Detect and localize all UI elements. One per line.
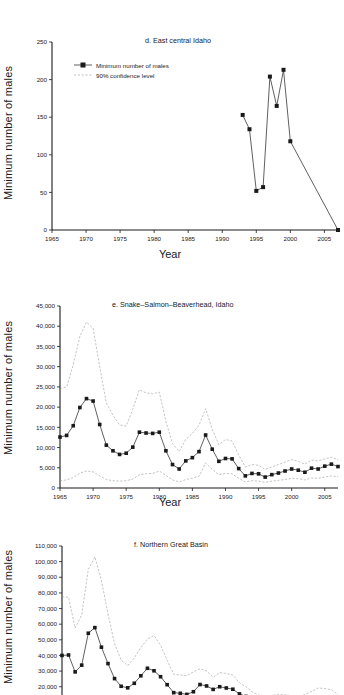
x-tick-label: 1970 [79,235,93,242]
panel-f-northern-great-basin: Minimum number of males f. Northern Grea… [0,518,344,695]
data-point-marker [124,451,128,455]
data-point-marker [230,457,234,461]
data-point-marker [197,450,201,454]
data-point-marker [192,690,196,694]
y-tick-label: 0 [52,484,56,491]
data-point-marker [113,677,117,681]
data-point-marker [210,447,214,451]
data-point-marker [217,460,221,464]
data-series-line [243,70,338,230]
legend-confidence-label: 90% confidence level [96,72,154,79]
y-tick-label: 30,000 [38,667,57,674]
data-point-marker [165,683,169,687]
data-point-marker [282,68,286,72]
data-point-marker [178,691,182,695]
data-point-marker [241,113,245,117]
data-point-marker [270,473,274,477]
data-point-marker [119,684,123,688]
confidence-band-line [60,463,338,482]
y-tick-label: 200 [37,76,48,83]
panel-e-plot: 05,00010,00015,00020,00025,00030,00035,0… [0,268,344,518]
panel-d-east-central-idaho: Minimum number of males d. East central … [0,0,344,268]
y-tick-label: 100 [37,151,48,158]
data-point-marker [100,645,104,649]
legend-series-marker [81,63,86,68]
y-tick-label: 45,000 [36,302,55,309]
data-point-marker [86,631,90,635]
y-tick-label: 60,000 [38,620,57,627]
data-point-marker [204,433,208,437]
x-tick-label: 1970 [86,493,100,500]
y-tick-label: 20,000 [36,403,55,410]
y-tick-label: 25,000 [36,383,55,390]
y-tick-label: 10,000 [36,444,55,451]
y-tick-label: 5,000 [40,464,56,471]
y-tick-label: 150 [37,113,48,120]
data-point-marker [268,75,272,79]
confidence-band-line [60,322,338,469]
y-tick-label: 110,000 [35,542,57,549]
data-point-marker [303,470,307,474]
data-point-marker [65,434,69,438]
y-tick-label: 35,000 [36,343,55,350]
y-tick-label: 100,000 [35,558,58,565]
y-tick-label: 90,000 [38,573,57,580]
y-tick-label: 40,000 [36,322,55,329]
data-point-marker [80,663,84,667]
y-tick-label: 250 [37,38,48,45]
data-point-marker [244,474,248,478]
data-point-marker [283,469,287,473]
data-point-marker [172,691,176,695]
data-point-marker [144,431,148,435]
y-tick-label: 40,000 [38,652,57,659]
legend-series-label: Minimum number of males [96,62,169,69]
data-point-marker [211,688,215,692]
data-point-marker [118,453,122,457]
data-point-marker [261,185,265,189]
x-tick-label: 1965 [53,493,67,500]
data-point-marker [106,662,110,666]
data-point-marker [58,435,62,439]
data-point-marker [296,468,300,472]
confidence-band-line [62,557,338,695]
data-point-marker [151,432,155,436]
panel-d-x-axis-title: Year [110,248,230,260]
data-point-marker [67,653,71,657]
data-point-marker [73,670,77,674]
x-tick-label: 1965 [45,235,59,242]
y-tick-label: 20,000 [38,683,57,690]
data-point-marker [275,104,279,108]
data-point-marker [277,471,281,475]
data-point-marker [336,228,340,232]
data-point-marker [257,472,261,476]
data-point-marker [191,456,195,460]
data-point-marker [152,669,156,673]
data-point-marker [290,467,294,471]
data-point-marker [263,475,267,479]
x-tick-label: 1975 [113,235,127,242]
data-point-marker [138,430,142,434]
x-tick-label: 1985 [181,235,195,242]
panel-f-plot: 10,00020,00030,00040,00050,00060,00070,0… [0,518,344,695]
data-point-marker [105,443,109,447]
y-tick-label: 0 [44,226,48,233]
y-tick-label: 50 [40,189,47,196]
data-point-marker [126,686,130,690]
data-point-marker [316,467,320,471]
data-point-marker [310,466,314,470]
data-point-marker [71,424,75,428]
y-tick-label: 80,000 [38,589,57,596]
data-point-marker [323,464,327,468]
data-point-marker [288,139,292,143]
y-tick-label: 50,000 [38,636,57,643]
x-tick-label: 1980 [147,235,161,242]
data-point-marker [157,430,161,434]
data-point-marker [247,127,251,131]
data-point-marker [184,459,188,463]
x-tick-label: 1995 [252,493,266,500]
data-point-marker [218,685,222,689]
data-point-marker [93,626,97,630]
data-point-marker [78,406,82,410]
data-point-marker [111,449,115,453]
data-point-marker [231,687,235,691]
